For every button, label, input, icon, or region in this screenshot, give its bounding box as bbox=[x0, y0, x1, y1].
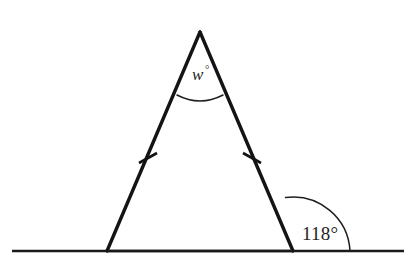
apex-angle-arc bbox=[177, 95, 223, 101]
apex-angle-degree-symbol: ° bbox=[205, 63, 209, 75]
geometry-diagram: w ° 118° bbox=[0, 0, 411, 267]
triangle-right-side bbox=[200, 32, 293, 251]
geometry-canvas: w ° 118° bbox=[0, 0, 411, 267]
triangle-left-side bbox=[107, 32, 200, 251]
apex-angle-label: w bbox=[192, 65, 204, 84]
exterior-angle-label: 118° bbox=[302, 223, 338, 244]
